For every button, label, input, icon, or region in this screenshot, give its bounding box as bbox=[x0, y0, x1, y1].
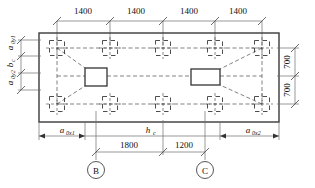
foundation-plan-svg: 1400 1400 1400 1400 bbox=[0, 0, 315, 188]
label-a0x2: a 0x2 bbox=[246, 125, 261, 136]
bottom-dim-label-2: 1200 bbox=[175, 140, 194, 150]
top-dim-label-4: 1400 bbox=[229, 6, 248, 16]
arrow-a0x1-left bbox=[39, 134, 45, 139]
drawing-canvas: 1400 1400 1400 1400 bbox=[0, 0, 315, 188]
right-dimension-group: 700 700 bbox=[277, 44, 299, 108]
bottom-axis-dimension-group: 1800 1200 B C bbox=[88, 111, 214, 179]
label-a0x2-base: a bbox=[246, 125, 251, 135]
diagonal-left-top bbox=[57, 48, 85, 68]
bottom-symbol-dimension-group: a 0x1 h c a 0x2 bbox=[39, 122, 279, 140]
label-a0y2-base: a bbox=[5, 80, 15, 85]
arrow-a0x1-right bbox=[79, 134, 85, 139]
top-dimension-group: 1400 1400 1400 1400 bbox=[53, 6, 266, 46]
pile-cap-outline bbox=[39, 33, 279, 122]
right-dim-label-1: 700 bbox=[282, 55, 292, 69]
left-dimension-group: a 0y1 b c a 0y2 bbox=[5, 35, 41, 94]
label-a0x1: a 0x1 bbox=[60, 125, 75, 136]
label-hc-sub: c bbox=[153, 130, 156, 136]
diagonal-right-top bbox=[220, 48, 262, 69]
top-dim-label-1: 1400 bbox=[74, 6, 93, 16]
grid-bubble-c-label: C bbox=[202, 166, 208, 176]
label-a0y1: a 0y1 bbox=[5, 35, 16, 50]
grid-bubble-b: B bbox=[88, 162, 105, 179]
grid-bubble-c: C bbox=[197, 162, 214, 179]
label-a0y2-sub: 0y2 bbox=[10, 70, 16, 79]
label-hc-base: h bbox=[146, 125, 151, 135]
diagonal-right-bottom bbox=[220, 85, 262, 104]
label-a0y1-base: a bbox=[5, 45, 15, 50]
label-bc: b c bbox=[5, 59, 16, 67]
label-a0x2-sub: 0x2 bbox=[252, 130, 261, 136]
label-hc: h c bbox=[146, 125, 156, 136]
arrow-a0x2-right bbox=[273, 134, 279, 139]
column-c-section bbox=[191, 69, 220, 85]
label-a0x1-sub: 0x1 bbox=[66, 130, 75, 136]
right-dim-label-2: 700 bbox=[282, 83, 292, 97]
label-a0y1-sub: 0y1 bbox=[10, 35, 16, 44]
bottom-dim-label-1: 1800 bbox=[120, 140, 139, 150]
top-dim-label-2: 1400 bbox=[127, 6, 146, 16]
label-a0y2: a 0y2 bbox=[5, 70, 16, 85]
arrow-a0x2-left bbox=[220, 134, 226, 139]
top-dim-label-3: 1400 bbox=[180, 6, 199, 16]
diagonal-left-bottom bbox=[57, 86, 85, 104]
column-b-section bbox=[85, 68, 107, 86]
grid-bubble-b-label: B bbox=[93, 166, 99, 176]
label-bc-base: b bbox=[5, 62, 15, 67]
label-bc-sub: c bbox=[10, 59, 16, 62]
label-a0x1-base: a bbox=[60, 125, 65, 135]
